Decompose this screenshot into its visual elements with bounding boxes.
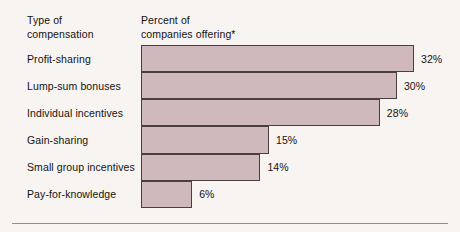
category-label-list: Profit-sharing Lump-sum bonuses Individu… — [27, 45, 137, 208]
bar — [141, 72, 397, 99]
bar-value-label: 28% — [387, 107, 408, 119]
bar — [141, 99, 380, 126]
category-label: Profit-sharing — [27, 45, 137, 72]
plot-area: 32% 30% 28% 15% 14% 6% — [141, 45, 441, 208]
bar-row: 28% — [141, 99, 441, 126]
category-label: Individual incentives — [27, 99, 137, 126]
bar-row: 32% — [141, 45, 441, 72]
bar — [141, 126, 269, 153]
bar-row: 14% — [141, 154, 441, 181]
category-label: Pay-for-knowledge — [27, 181, 137, 208]
bar-row: 30% — [141, 72, 441, 99]
bar — [141, 181, 192, 208]
category-label: Small group incentives — [27, 154, 137, 181]
bar-value-label: 6% — [199, 188, 214, 200]
bar-value-label: 32% — [421, 53, 442, 65]
bar-row: 15% — [141, 126, 441, 153]
category-label: Lump-sum bonuses — [27, 72, 137, 99]
bar-value-label: 30% — [404, 80, 425, 92]
bar-value-label: 14% — [267, 161, 288, 173]
bar-chart-figure: Type of compensation Percent of companie… — [0, 0, 460, 232]
bar — [141, 154, 260, 181]
column-heading-value: Percent of companies offering* — [141, 14, 236, 41]
bar — [141, 45, 414, 72]
bar-value-label: 15% — [276, 134, 297, 146]
column-heading-category: Type of compensation — [27, 14, 94, 41]
bottom-rule-divider — [12, 223, 448, 224]
category-label: Gain-sharing — [27, 126, 137, 153]
bar-row: 6% — [141, 181, 441, 208]
